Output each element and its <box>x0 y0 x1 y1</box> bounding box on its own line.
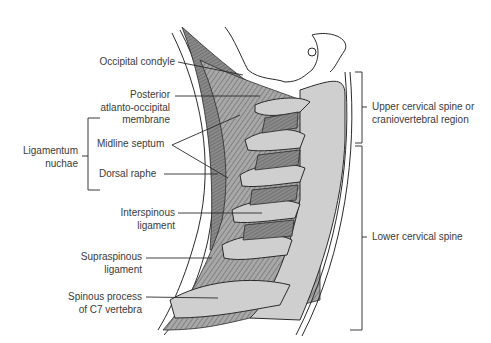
label-dorsal-raphe: Dorsal raphe <box>99 168 156 181</box>
label-ligamentum-nuchae: Ligamentum nuchae <box>10 145 78 170</box>
label-line: membrane <box>80 114 170 127</box>
ligamentum-nuchae-bracket <box>82 118 100 190</box>
label-line: Interspinous <box>100 207 175 220</box>
label-midline-septum: Midline septum <box>97 138 164 151</box>
label-line: Upper cervical spine or <box>372 101 474 114</box>
label-supraspinous-ligament: Supraspinous ligament <box>60 251 142 276</box>
label-line: craniovertebral region <box>372 114 474 127</box>
label-spinous-process-c7: Spinous process of C7 vertebra <box>50 291 142 316</box>
label-line: ligament <box>60 264 142 277</box>
occipital-bone <box>225 27 346 82</box>
label-line: ligament <box>100 220 175 233</box>
label-lower-cervical-spine: Lower cervical spine <box>372 231 463 244</box>
region-brackets <box>350 72 367 330</box>
label-upper-cervical-region: Upper cervical spine or craniovertebral … <box>372 101 474 126</box>
label-line: of C7 vertebra <box>50 304 142 317</box>
label-line: Posterior <box>80 89 170 102</box>
label-posterior-atlanto-occipital-membrane: Posterior atlanto-occipital membrane <box>80 89 170 127</box>
label-line: nuchae <box>10 158 78 171</box>
label-line: atlanto-occipital <box>80 102 170 115</box>
label-line: Ligamentum <box>10 145 78 158</box>
label-line: Supraspinous <box>60 251 142 264</box>
label-line: Spinous process <box>50 291 142 304</box>
label-occipital-condyle: Occipital condyle <box>95 56 175 69</box>
label-interspinous-ligament: Interspinous ligament <box>100 207 175 232</box>
